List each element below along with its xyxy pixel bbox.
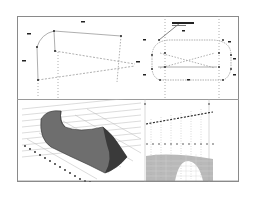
perspective-wireframe-view bbox=[17, 16, 135, 99]
side-elevation-drawing bbox=[141, 99, 239, 182]
front-elevation-view bbox=[135, 16, 239, 99]
shaded-surface-drawing bbox=[17, 99, 141, 182]
shaded-surface-view bbox=[17, 99, 141, 182]
front-elevation-drawing bbox=[135, 16, 239, 99]
perspective-wireframe-drawing bbox=[17, 16, 135, 99]
side-elevation-view bbox=[141, 99, 239, 182]
